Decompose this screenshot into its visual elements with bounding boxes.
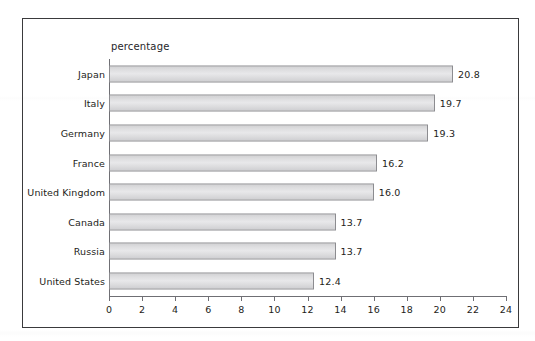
bar-category-label: United Kingdom [27,187,105,198]
bar-value-label: 13.7 [341,216,363,227]
x-tick-mark [274,296,275,301]
x-tick-mark [473,296,474,301]
bar-rect [109,95,435,112]
x-tick-label: 8 [238,304,244,315]
bar-rect [109,65,453,82]
bar-rect [109,184,374,201]
x-tick-mark [506,296,507,301]
bar-rect [109,124,428,141]
chart-frame: percentage Japan20.8Italy19.7Germany19.3… [22,18,519,328]
x-axis-label: percentage [111,41,169,52]
x-tick-label: 20 [434,304,447,315]
x-tick-label: 18 [401,304,414,315]
plot-area: percentage Japan20.8Italy19.7Germany19.3… [23,19,520,329]
bar-track [109,95,435,112]
x-tick-label: 2 [139,304,145,315]
x-tick-mark [175,296,176,301]
x-tick-label: 6 [205,304,211,315]
bar-row: United Kingdom16.0 [23,177,520,207]
bar-category-label: Japan [78,68,105,79]
x-tick-label: 22 [467,304,480,315]
bar-value-label: 12.4 [319,275,341,286]
x-tick-label: 0 [106,304,112,315]
bar-row: Canada13.7 [23,207,520,237]
bar-row: Germany19.3 [23,118,520,148]
bar-value-label: 13.7 [341,246,363,257]
bar-category-label: Italy [84,98,105,109]
bar-rect [109,272,314,289]
bar-row: Japan20.8 [23,59,520,89]
bar-track [109,154,377,171]
bar-value-label: 19.3 [433,127,455,138]
bar-category-label: Russia [74,246,105,257]
bar-track [109,213,336,230]
x-tick-label: 16 [367,304,380,315]
bar-rect [109,243,336,260]
bar-category-label: Germany [61,127,105,138]
x-tick-mark [407,296,408,301]
x-tick-label: 10 [268,304,281,315]
x-tick-label: 4 [172,304,178,315]
x-tick-mark [308,296,309,301]
bar-row: France16.2 [23,148,520,178]
x-tick-mark [208,296,209,301]
bar-track [109,243,336,260]
bar-value-label: 16.0 [379,187,401,198]
x-tick-label: 12 [301,304,314,315]
bar-category-label: United States [39,275,105,286]
bar-row: Russia13.7 [23,237,520,267]
bar-row: Italy19.7 [23,89,520,119]
x-tick-mark [241,296,242,301]
x-tick-label: 14 [334,304,347,315]
bar-category-label: Canada [68,216,105,227]
bar-row: United States12.4 [23,266,520,296]
x-tick-mark [109,296,110,301]
bar-track [109,124,428,141]
bar-track [109,65,453,82]
x-tick-label: 24 [500,304,513,315]
bar-rect [109,154,377,171]
bar-value-label: 20.8 [458,68,480,79]
x-tick-mark [341,296,342,301]
bar-track [109,184,374,201]
x-tick-mark [374,296,375,301]
bars-region: Japan20.8Italy19.7Germany19.3France16.2U… [23,59,520,296]
bar-track [109,272,314,289]
bar-rect [109,213,336,230]
x-tick-mark [142,296,143,301]
bar-value-label: 16.2 [382,157,404,168]
x-axis-ticks: 024681012141618202224 [23,296,520,329]
bar-value-label: 19.7 [440,98,462,109]
x-tick-mark [440,296,441,301]
bar-category-label: France [73,157,105,168]
